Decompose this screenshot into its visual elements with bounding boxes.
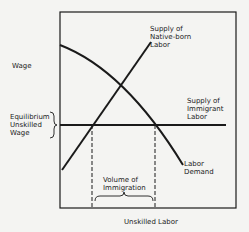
native-supply-label: Supply of Native-born Labor [150, 25, 191, 49]
immigrant-supply-label: Supply of Immigrant Labor [187, 97, 223, 121]
volume-of-immigration-label: Volume of Immigration [103, 176, 146, 192]
x-axis-label: Unskilled Labor [124, 218, 178, 226]
volume-bracket [95, 192, 153, 201]
native-supply-line [62, 42, 151, 170]
equilibrium-wage-label: Equilibrium Unskilled Wage [10, 113, 50, 137]
y-axis-label: Wage [12, 62, 32, 70]
labor-demand-label: Labor Demand [184, 160, 214, 176]
equilibrium-brace [50, 112, 57, 138]
